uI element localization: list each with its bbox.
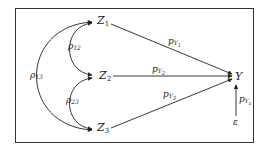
node-z3: Z3 [96,121,109,135]
node-z1: Z1 [96,14,109,28]
diagram-border [16,9,254,143]
label-py3: pY3 [163,89,176,101]
arrow-z3-y [111,79,232,128]
node-epsilon: ε [233,117,238,127]
node-y: Y [235,70,244,83]
path-diagram: Z1 Z2 Z3 Y ε ρ12 ρ13 ρ23 pY1 pY2 pY3 pYε [0,0,265,151]
arc-rho13 [37,22,93,130]
label-pye: pYε [239,94,252,106]
label-rho12: ρ12 [67,41,81,51]
label-py2: pY2 [152,64,165,76]
label-rho23: ρ23 [65,95,79,105]
arrow-z1-y [111,24,232,74]
label-rho13: ρ13 [29,70,43,80]
node-z2: Z2 [98,69,111,83]
label-py1: pY1 [168,36,181,48]
